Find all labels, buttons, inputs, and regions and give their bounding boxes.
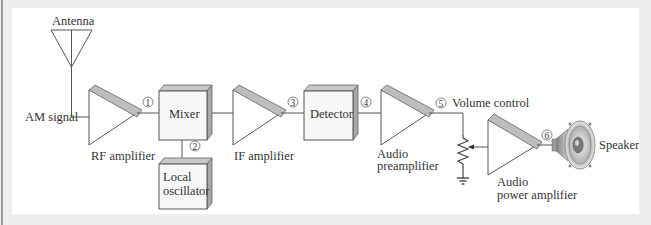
detector-label: Detector [310,107,354,121]
audio-power-label-2: power amplifier [497,188,578,202]
if-amplifier-label: IF amplifier [234,149,295,163]
test-point-2: 2 [190,141,200,152]
audio-preamplifier: Audio preamplifier [377,85,440,173]
svg-text:2: 2 [193,142,198,152]
speaker-label: Speaker [599,138,639,152]
diagram-canvas: Antenna AM signal RF amplifier 1 Mixer 2… [12,8,639,214]
svg-text:6: 6 [545,131,550,141]
frame-edge [1,0,3,225]
audio-preamp-label-2: preamplifier [377,159,440,173]
local-oscillator-label-1: Local [163,170,192,184]
ground-icon [457,178,469,184]
potentiometer-icon [458,135,491,178]
mixer-label: Mixer [169,107,200,121]
svg-text:3: 3 [291,98,296,108]
antenna-icon: Antenna [51,14,95,117]
rf-amplifier-label: RF amplifier [91,149,156,163]
test-point-4: 4 [361,97,371,108]
detector-block: Detector [304,85,358,140]
antenna-label: Antenna [52,14,95,28]
local-oscillator-label-2: oscillator [163,184,210,198]
speaker-icon [552,121,595,169]
volume-control-label: Volume control [452,96,530,110]
svg-text:5: 5 [439,99,444,109]
test-point-1: 1 [143,97,153,108]
test-point-5: 5 [436,98,446,109]
svg-text:4: 4 [364,98,369,108]
mixer-block: Mixer [159,85,212,140]
test-point-3: 3 [288,97,298,108]
local-oscillator-block: Local oscillator [159,158,212,209]
svg-text:1: 1 [146,98,151,108]
test-point-6: 6 [542,130,552,141]
if-amplifier: IF amplifier [233,85,295,163]
audio-power-label-1: Audio [497,175,528,189]
am-signal-label: AM signal [25,110,79,124]
